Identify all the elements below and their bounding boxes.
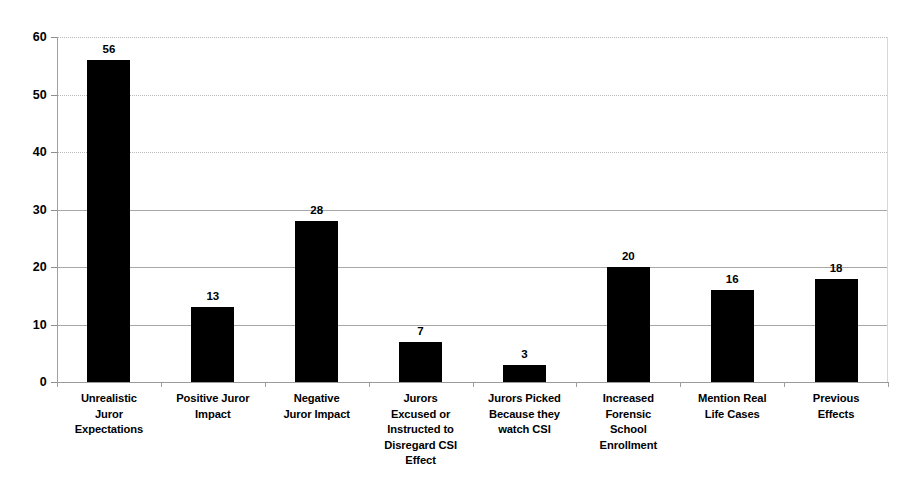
category-label-line: Jurors Picked <box>473 391 577 407</box>
y-axis-line <box>57 37 58 382</box>
category-label: Jurors PickedBecause theywatch CSI <box>473 391 577 438</box>
x-tick-mark <box>888 382 889 387</box>
bar-value-label: 3 <box>484 349 564 361</box>
category-label-line: Effects <box>784 407 888 423</box>
category-label: NegativeJuror Impact <box>265 391 369 422</box>
x-tick-mark <box>57 382 58 387</box>
y-tick-label-10: 10 <box>1 319 47 332</box>
y-tick-label-50: 50 <box>1 89 47 102</box>
x-tick-mark <box>265 382 266 387</box>
bar <box>191 307 234 382</box>
bar-value-label: 18 <box>796 263 876 275</box>
category-label-line: Instructed to <box>369 422 473 438</box>
category-label-line: watch CSI <box>473 422 577 438</box>
category-label-line: Juror Impact <box>265 407 369 423</box>
x-tick-mark <box>161 382 162 387</box>
bar-value-label: 28 <box>277 205 357 217</box>
category-label-line: Forensic <box>576 407 680 423</box>
y-tick-label-30: 30 <box>1 204 47 217</box>
gridline-60 <box>57 37 887 38</box>
x-tick-mark <box>369 382 370 387</box>
bar <box>87 60 130 382</box>
y-tick-mark-50 <box>51 95 57 96</box>
category-label-line: Increased <box>576 391 680 407</box>
bar <box>711 290 754 382</box>
category-label: Mention RealLife Cases <box>680 391 784 422</box>
x-tick-mark <box>784 382 785 387</box>
x-tick-mark <box>576 382 577 387</box>
category-label-line: Positive Juror <box>161 391 265 407</box>
gridline-40 <box>57 152 887 153</box>
bar <box>815 279 858 383</box>
bar <box>607 267 650 382</box>
y-axis-tick-labels: 60 50 40 30 20 10 0 <box>0 0 47 496</box>
category-label-line: Impact <box>161 407 265 423</box>
category-label-line: Jurors <box>369 391 473 407</box>
gridline-20 <box>57 267 887 268</box>
x-tick-mark <box>680 382 681 387</box>
bar-value-label: 13 <box>173 291 253 303</box>
category-label: Positive JurorImpact <box>161 391 265 422</box>
category-label-line: Because they <box>473 407 577 423</box>
bar-value-label: 16 <box>692 274 772 286</box>
y-tick-mark-30 <box>51 210 57 211</box>
bar <box>295 221 338 382</box>
gridline-50 <box>57 95 887 96</box>
category-label-line: Life Cases <box>680 407 784 423</box>
y-tick-label-0: 0 <box>1 376 47 389</box>
category-label-line: Effect <box>369 453 473 469</box>
bar-value-label: 7 <box>381 326 461 338</box>
category-label-line: Previous <box>784 391 888 407</box>
category-label: UnrealisticJurorExpectations <box>57 391 161 438</box>
bar-chart: 60 50 40 30 20 10 0 56132873201618 Unrea… <box>0 0 917 496</box>
gridline-30 <box>57 210 887 211</box>
y-tick-mark-10 <box>51 325 57 326</box>
y-tick-label-40: 40 <box>1 146 47 159</box>
category-label-line: Negative <box>265 391 369 407</box>
bar-value-label: 20 <box>588 251 668 263</box>
category-label-line: Enrollment <box>576 438 680 454</box>
category-label-line: Excused or <box>369 407 473 423</box>
x-tick-mark <box>473 382 474 387</box>
category-label: JurorsExcused orInstructed toDisregard C… <box>369 391 473 469</box>
bar <box>503 365 546 382</box>
category-label: IncreasedForensicSchoolEnrollment <box>576 391 680 453</box>
category-label-line: Mention Real <box>680 391 784 407</box>
gridline-10 <box>57 325 887 326</box>
category-label-line: Juror <box>57 407 161 423</box>
y-tick-mark-60 <box>51 37 57 38</box>
category-label-line: Disregard CSI <box>369 438 473 454</box>
y-tick-mark-20 <box>51 267 57 268</box>
y-tick-label-20: 20 <box>1 261 47 274</box>
category-label-line: Unrealistic <box>57 391 161 407</box>
category-label: PreviousEffects <box>784 391 888 422</box>
bar-value-label: 56 <box>69 44 149 56</box>
y-tick-label-60: 60 <box>1 31 47 44</box>
y-tick-mark-40 <box>51 152 57 153</box>
bar <box>399 342 442 382</box>
category-label-line: Expectations <box>57 422 161 438</box>
category-label-line: School <box>576 422 680 438</box>
plot-area <box>57 37 888 382</box>
